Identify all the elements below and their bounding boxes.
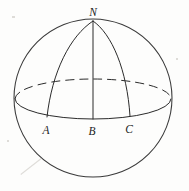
label-north-pole: N (88, 6, 98, 18)
label-point-c: C (125, 123, 133, 135)
sphere-diagram-figure: N A B C (0, 0, 189, 191)
meridian-arc-to-c (93, 21, 130, 116)
meridian-arc-to-a (47, 21, 93, 117)
label-point-a: A (41, 124, 50, 136)
sphere-diagram-canvas: N A B C (0, 0, 189, 191)
label-point-b: B (88, 125, 95, 137)
